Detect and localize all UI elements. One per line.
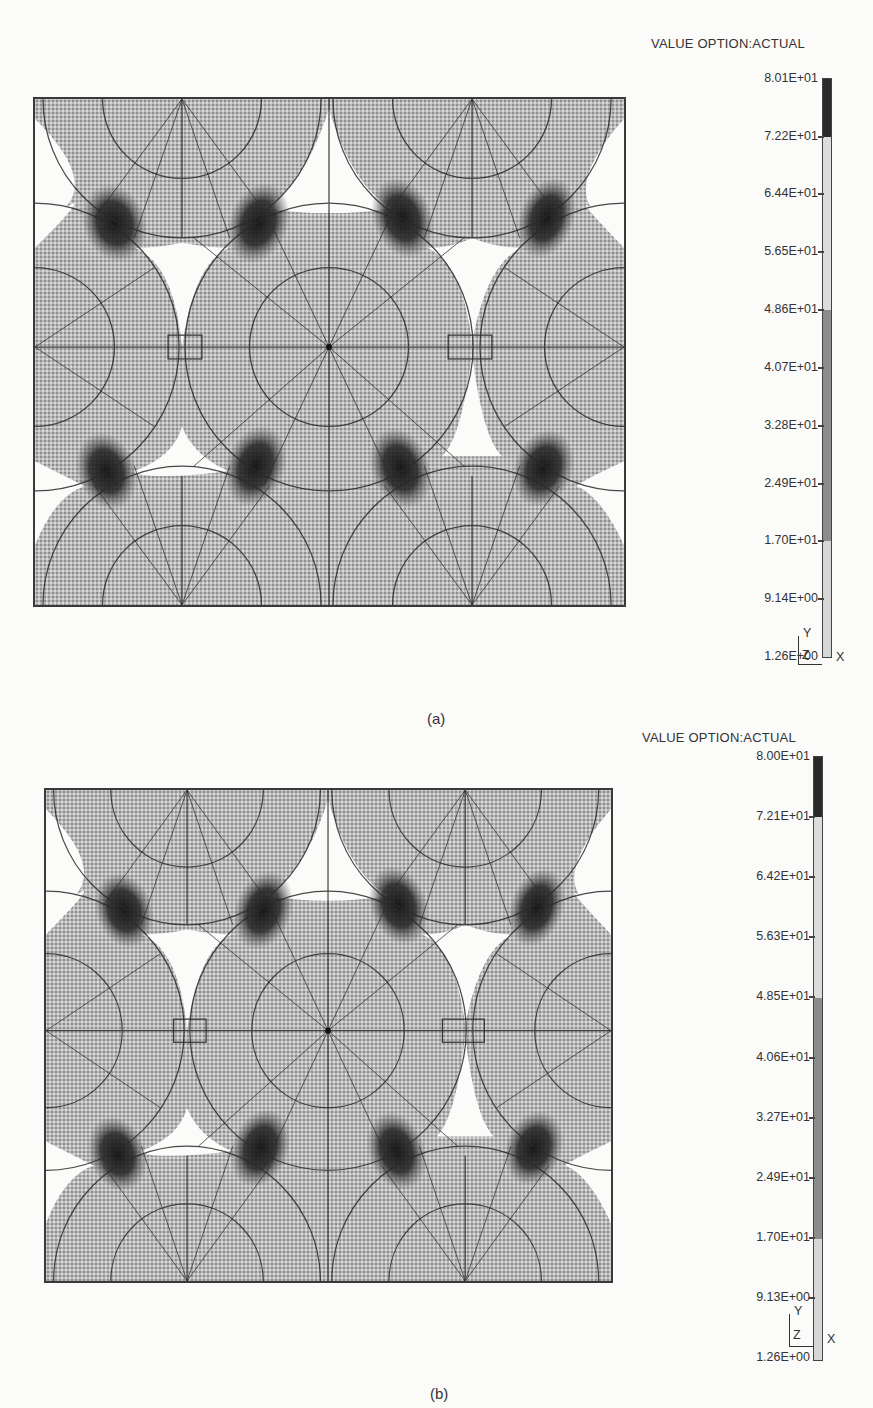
legend-tick-a — [818, 193, 824, 195]
legend-tick-label-b: 3.27E+01 — [710, 1110, 810, 1124]
axis-x-line — [798, 664, 822, 665]
legend-tick-label-b: 8.00E+01 — [710, 749, 810, 763]
legend-tick-label-b: 4.85E+01 — [710, 989, 810, 1003]
legend-tick-b — [809, 1057, 815, 1059]
axis-label-x: X — [827, 1332, 835, 1346]
legend-tick-b — [809, 1177, 815, 1179]
legend-tick-b — [809, 1237, 815, 1239]
legend-tick-label-a: 7.22E+01 — [718, 129, 818, 143]
axis-label-y: Y — [803, 626, 811, 640]
legend-tick-label-b: 2.49E+01 — [710, 1170, 810, 1184]
contour-mesh-b — [46, 790, 611, 1281]
legend-tick-label-b: 7.21E+01 — [710, 809, 810, 823]
band-b-2 — [814, 998, 822, 1239]
axis-triad-a: Y Z X — [798, 628, 858, 668]
legend-tick-label-a: 4.86E+01 — [718, 302, 818, 316]
legend-tick-b — [809, 876, 815, 878]
color-scale-bar-b — [813, 756, 823, 1361]
legend-tick-label-b: 4.06E+01 — [710, 1050, 810, 1064]
legend-tick-label-a: 9.14E+00 — [718, 591, 818, 605]
axis-label-x: X — [836, 650, 844, 664]
band-a-0 — [823, 79, 831, 137]
legend-tick-b — [809, 996, 815, 998]
legend-tick-label-a: 8.01E+01 — [718, 71, 818, 85]
contour-mesh-a — [35, 99, 624, 605]
legend-title-b: VALUE OPTION:ACTUAL — [642, 730, 796, 745]
legend-tick-a — [818, 309, 824, 311]
band-a-1 — [823, 137, 831, 310]
legend-tick-b — [809, 936, 815, 938]
band-a-2 — [823, 310, 831, 541]
axis-label-z: Z — [802, 648, 810, 662]
legend-tick-label-a: 4.07E+01 — [718, 360, 818, 374]
contour-plot-b — [44, 788, 613, 1283]
legend-tick-b — [809, 816, 815, 818]
legend-tick-label-b: 1.70E+01 — [710, 1230, 810, 1244]
figure-caption-b: (b) — [430, 1385, 448, 1402]
axis-triad-b: Y Z X — [789, 1306, 849, 1346]
legend-tick-a — [818, 367, 824, 369]
axis-y-line — [789, 1314, 790, 1346]
legend-tick-a — [818, 483, 824, 485]
legend-tick-label-a: 2.49E+01 — [718, 476, 818, 490]
band-b-0 — [814, 757, 822, 817]
contour-plot-a — [33, 97, 626, 607]
axis-x-line — [789, 1346, 814, 1347]
legend-title-a: VALUE OPTION:ACTUAL — [651, 36, 805, 51]
axis-y-line — [798, 636, 799, 664]
legend-tick-label-a: 6.44E+01 — [718, 186, 818, 200]
legend-tick-a — [818, 598, 824, 600]
axis-label-z: Z — [793, 1328, 801, 1342]
legend-tick-label-b: 1.26E+00 — [710, 1350, 810, 1364]
legend-tick-label-b: 5.63E+01 — [710, 929, 810, 943]
legend-tick-label-a: 5.65E+01 — [718, 244, 818, 258]
legend-tick-a — [818, 136, 824, 138]
axis-label-y: Y — [794, 1304, 802, 1318]
legend-tick-b — [809, 1117, 815, 1119]
legend-tick-a — [818, 540, 824, 542]
legend-tick-label-b: 9.13E+00 — [710, 1290, 810, 1304]
legend-tick-label-a: 3.28E+01 — [718, 418, 818, 432]
legend-tick-b — [809, 1297, 815, 1299]
legend-tick-label-a: 1.70E+01 — [718, 533, 818, 547]
legend-tick-a — [818, 251, 824, 253]
figure-caption-a: (a) — [427, 710, 445, 727]
legend-tick-label-b: 6.42E+01 — [710, 869, 810, 883]
legend-tick-a — [818, 425, 824, 427]
band-b-1 — [814, 817, 822, 998]
